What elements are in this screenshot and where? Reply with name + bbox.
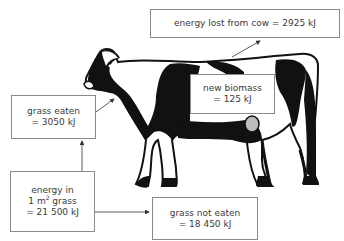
- grass-not-eaten-value: = 18 450 kJ: [179, 219, 232, 230]
- new-biomass-label: new biomass: [203, 83, 262, 94]
- new-biomass-box: new biomass = 125 kJ: [190, 74, 275, 114]
- arrow-eaten-to-cow: [96, 99, 114, 112]
- grass-not-eaten-label: grass not eaten: [170, 208, 241, 219]
- energy-in-value: = 21 500 kJ: [26, 207, 79, 218]
- new-biomass-value: = 125 kJ: [213, 94, 251, 105]
- grass-eaten-value: = 3050 kJ: [31, 117, 75, 128]
- cow-icon: [84, 49, 318, 187]
- energy-lost-box: energy lost from cow = 2925 kJ: [150, 9, 340, 38]
- energy-in-label: energy in: [31, 185, 73, 196]
- energy-in-area: 1 m2 grass: [28, 196, 76, 207]
- energy-flow-diagram: energy lost from cow = 2925 kJ new bioma…: [0, 0, 344, 241]
- energy-in-box: energy in 1 m2 grass = 21 500 kJ: [10, 171, 95, 232]
- energy-lost-label: energy lost from cow = 2925 kJ: [174, 18, 316, 29]
- grass-not-eaten-box: grass not eaten = 18 450 kJ: [152, 197, 258, 240]
- grass-eaten-label: grass eaten: [27, 106, 80, 117]
- grass-eaten-box: grass eaten = 3050 kJ: [11, 95, 96, 139]
- arrow-cow-to-lost: [232, 41, 260, 57]
